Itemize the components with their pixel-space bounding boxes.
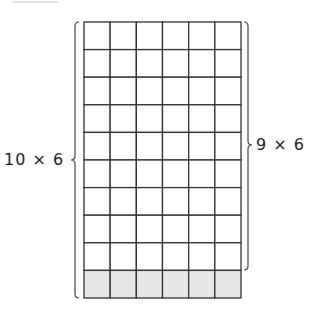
grid-cell (163, 105, 189, 133)
grid-cell (110, 188, 136, 216)
grid-cell (110, 215, 136, 243)
grid-cell (163, 50, 189, 78)
grid-cell (215, 132, 241, 160)
grid-cell (136, 215, 162, 243)
grid-cell-shaded (110, 270, 136, 298)
grid-cell (110, 132, 136, 160)
grid-cell (163, 188, 189, 216)
grid-cell (84, 77, 110, 105)
grid-cell (163, 160, 189, 188)
grid-cell (136, 160, 162, 188)
grid-cell (136, 188, 162, 216)
left-expression-label: 10 × 6 (4, 150, 64, 169)
grid-cell (84, 132, 110, 160)
grid-cell (163, 215, 189, 243)
grid-cell (189, 105, 215, 133)
grid-cell (136, 77, 162, 105)
grid-cell (189, 160, 215, 188)
grid-cell (110, 105, 136, 133)
grid-cell-shaded (189, 270, 215, 298)
grid-cell (189, 22, 215, 50)
grid-cell (84, 243, 110, 271)
grid-cell (110, 243, 136, 271)
grid-cell (84, 105, 110, 133)
left-brace (71, 22, 79, 298)
grid-cell (215, 160, 241, 188)
right-expression-label: 9 × 6 (256, 135, 305, 154)
grid-cell (136, 105, 162, 133)
grid-cell (84, 215, 110, 243)
grid-cell (189, 132, 215, 160)
grid-cell (215, 50, 241, 78)
grid-cell (163, 132, 189, 160)
grid-cell (136, 22, 162, 50)
grid-cell-shaded (136, 270, 162, 298)
grid-cell (215, 77, 241, 105)
grid-cell (189, 188, 215, 216)
grid-cell-shaded (215, 270, 241, 298)
grid-cell (84, 160, 110, 188)
grid-cell (215, 22, 241, 50)
grid-cell (136, 50, 162, 78)
grid-cell (110, 77, 136, 105)
grid-cell-shaded (84, 270, 110, 298)
grid-cell (163, 77, 189, 105)
grid-cell (215, 215, 241, 243)
grid-cell (110, 160, 136, 188)
grid-cell (84, 188, 110, 216)
grid-cell-shaded (163, 270, 189, 298)
grid-cell (110, 50, 136, 78)
grid-cell (110, 22, 136, 50)
grid-cell (215, 243, 241, 271)
grid-cell (136, 243, 162, 271)
grid-cell (163, 22, 189, 50)
grid-cell (84, 22, 110, 50)
array-grid (84, 22, 241, 298)
grid-cell (189, 50, 215, 78)
grid-cell (215, 188, 241, 216)
grid-cell (215, 105, 241, 133)
grid-cell (136, 132, 162, 160)
grid-cell (163, 243, 189, 271)
grid-cell (189, 215, 215, 243)
grid-cell (84, 50, 110, 78)
grid-cell (189, 77, 215, 105)
grid-cell (189, 243, 215, 271)
right-brace (244, 22, 252, 270)
